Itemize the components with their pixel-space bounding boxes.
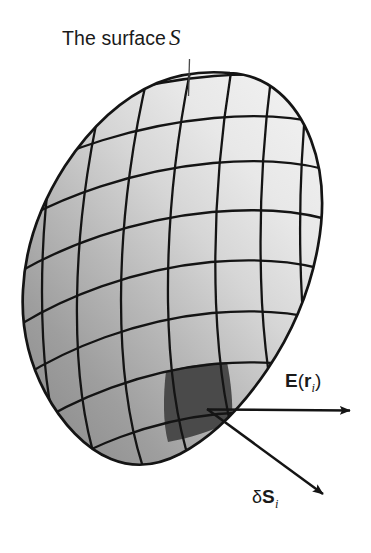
surface-label-text: The surface: [62, 27, 166, 49]
efield-close-paren: ): [315, 370, 321, 391]
area-element-vector-symbol: S: [262, 486, 275, 507]
area-vector-arrow: [207, 409, 323, 494]
delta-symbol: δ: [252, 487, 262, 507]
area-element-subscript: i: [275, 497, 279, 511]
surface-label: The surfaceS: [62, 26, 181, 49]
area-element-label: δSi: [252, 487, 278, 511]
surface-label-symbol: S: [166, 25, 181, 50]
figure-canvas: The surfaceS E(ri) δSi: [0, 0, 371, 553]
efield-label: E(ri): [285, 371, 321, 395]
efield-arrow: [207, 410, 350, 411]
efield-vector-symbol: E: [285, 370, 298, 391]
surface-diagram-svg: [0, 0, 371, 553]
